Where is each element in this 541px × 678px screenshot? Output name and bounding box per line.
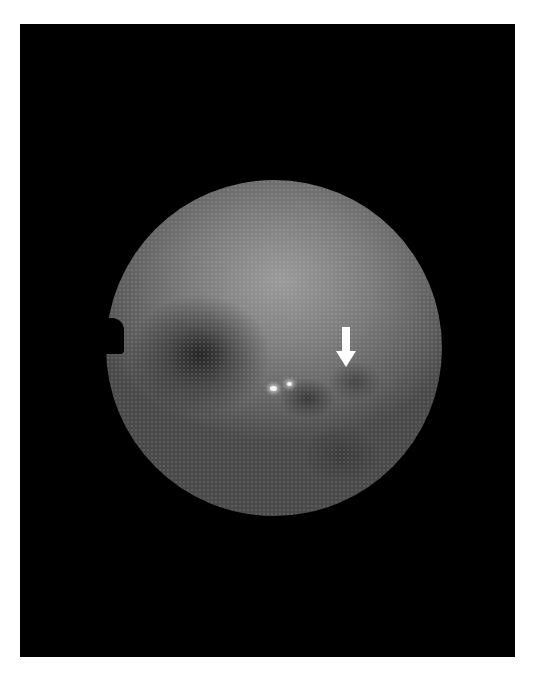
reflex-spot — [270, 386, 277, 391]
reflex-spot — [287, 382, 292, 386]
field-notch — [100, 318, 124, 354]
mesh-texture — [106, 180, 442, 516]
arrow-down-icon — [336, 327, 356, 367]
fundus-field-of-view — [106, 180, 442, 516]
